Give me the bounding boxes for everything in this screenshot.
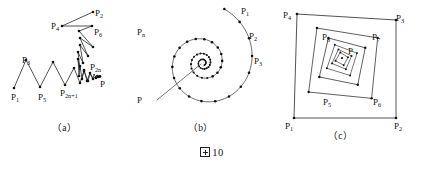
quad-vertex-dot (349, 75, 351, 77)
spiral-vertex-dot (211, 41, 214, 44)
point-label-p2: P2 (394, 122, 402, 131)
point-label-p6: P6 (373, 98, 381, 107)
spiral-vertex-dot (203, 64, 205, 66)
vertex-dot (79, 44, 82, 47)
spiral-vertex-dot (191, 59, 193, 61)
quad-vertex-dot (345, 68, 347, 70)
vertex-dot (82, 62, 85, 65)
point-label-p1: P1 (241, 7, 249, 16)
spiral-vertex-dot (178, 87, 181, 90)
quad-vertex-dot (318, 76, 320, 78)
vertex-dot (91, 25, 94, 28)
spiral-vertex-dot (200, 67, 202, 69)
spiral-vertex-dot (196, 75, 198, 77)
spiral-vertex-dot (208, 56, 210, 58)
quad-vertex-dot (356, 52, 358, 54)
spiral-vertex-dot (199, 53, 201, 55)
spiral-vertex-dot (240, 85, 243, 88)
spiral-vertex-dot (211, 75, 214, 78)
spiral-vertex-dot (223, 8, 226, 11)
spiral-vertex-dot (216, 71, 219, 74)
vertex-dot (83, 69, 86, 72)
spiral-vertex-dot (251, 55, 254, 58)
figure-container: （a） P2P4P6P3P2nPP2n+1P1P5 （b） P1P2P3PnP … (0, 0, 424, 172)
vertex-dot (81, 78, 84, 81)
spiral-vertex-dot (202, 68, 204, 70)
vertex-dot (79, 37, 82, 40)
vertex-dot (77, 51, 80, 54)
figure-caption: 10 (0, 146, 424, 158)
quad-vertex-dot (307, 91, 309, 93)
spiral-vertex-dot (200, 100, 203, 103)
point-label-p: P (348, 47, 353, 56)
spiral-vertex-dot (190, 67, 192, 69)
quad-vertex-dot (395, 117, 398, 120)
spiral-vertex-dot (238, 21, 241, 24)
spiral-vertex-dot (178, 47, 181, 50)
spiral-vertex-dot (193, 56, 195, 58)
vertex-dot (13, 87, 16, 90)
spiral-vertex-dot (203, 68, 205, 70)
spiral-vertex-dot (214, 100, 217, 103)
quad-vertex-dot (331, 62, 333, 64)
center-point-dot (341, 57, 343, 59)
quad-vertex-dot (339, 52, 341, 54)
spiral-vertex-dot (171, 66, 174, 69)
spiral-vertex-dot (248, 71, 251, 74)
panel-b-drawing (135, 0, 281, 140)
quad-vertex-dot (334, 44, 336, 46)
quad-vertex-dot (296, 13, 299, 16)
panel-b-sublabel: （b） (188, 120, 214, 134)
spiral-vertex-dot (209, 59, 211, 61)
quad-vertex-dot (343, 64, 345, 66)
spiral-vertex-dot (216, 46, 219, 49)
spiral-vertex-dot (207, 66, 209, 68)
vertex-dot (78, 75, 81, 78)
point-label-p4: P4 (51, 22, 59, 31)
vertex-dot (73, 67, 76, 70)
point-label-p: P (137, 96, 142, 105)
vertex-dot (86, 80, 89, 83)
point-label-p5: P5 (323, 98, 331, 107)
quad-vertex-dot (357, 84, 359, 86)
point-label-p2: P2 (249, 32, 257, 41)
vertex-dot (64, 84, 67, 87)
vertex-dot (92, 46, 95, 49)
point-label-p1: P1 (285, 122, 293, 131)
point-label-p3: P3 (254, 57, 262, 66)
quad-vertex-dot (335, 60, 337, 62)
quad-vertex-dot (326, 67, 328, 69)
leader-line-p (157, 64, 201, 100)
quad-vertex-dot (337, 48, 339, 50)
quad-vertex-dot (316, 27, 318, 29)
spiral-vertex-dot (219, 66, 222, 69)
spiral-vertex-dot (193, 72, 195, 74)
point-label-p2: P2 (95, 9, 103, 18)
spiral-vertex-dot (186, 41, 189, 44)
spiral-vertex-dot (220, 53, 223, 56)
spiral-vertex-dot (203, 38, 206, 41)
quad-vertex-dot (293, 117, 296, 120)
vertex-dot (92, 78, 95, 81)
spiral-vertex-dot (173, 55, 176, 58)
spiral-vertex-dot (197, 62, 199, 64)
point-label-p1: P1 (11, 93, 19, 102)
vertex-dot (92, 11, 95, 14)
spiral-vertex-dot (206, 54, 208, 56)
point-label-p3: P3 (396, 14, 404, 23)
vertex-dot (52, 61, 55, 64)
vertex-dot (79, 65, 82, 68)
spiral-vertex-dot (206, 67, 208, 69)
spiral-vertex-dot (196, 54, 198, 56)
figure-box-glyph-icon (200, 147, 210, 157)
panel-a-sublabel: （a） (52, 120, 77, 134)
spiral-vertex-dot (201, 77, 203, 79)
quad-ring-2 (319, 38, 365, 85)
point-label-p2n1: P2n+1 (60, 89, 78, 98)
panel-a-drawing (0, 0, 141, 140)
spiral-vertex-dot (228, 95, 231, 98)
point-label-pn: Pn (137, 28, 145, 37)
spiral-vertex-dot (206, 77, 208, 79)
point-label-p5: P5 (38, 93, 46, 102)
point-label-p3: P3 (22, 56, 30, 65)
